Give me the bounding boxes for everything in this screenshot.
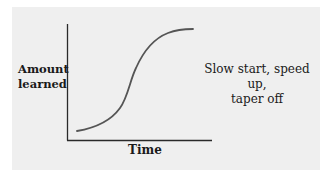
annotation-line1: Slow start, speed up, — [201, 62, 313, 92]
x-axis-label: Time — [120, 143, 170, 158]
y-axis-label-line1: Amount — [18, 62, 64, 77]
annotation-line2: taper off — [201, 92, 313, 107]
curve-annotation: Slow start, speed up, taper off — [201, 62, 313, 107]
s-curve-line — [77, 29, 193, 131]
y-axis-label-line2: learned — [18, 77, 64, 92]
y-axis-label: Amount learned — [18, 62, 64, 92]
